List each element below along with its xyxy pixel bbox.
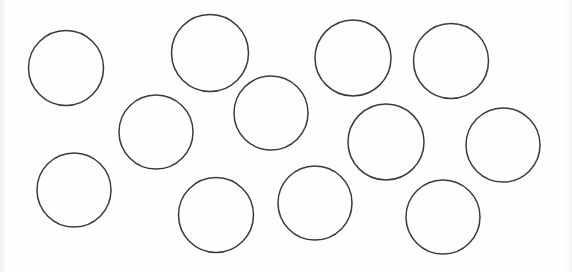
circle-10: circle 10 (179, 178, 254, 253)
circle-12: circle 12 (406, 180, 480, 254)
drawing-canvas: circle 1circle 2circle 3circle 4circle 5… (0, 0, 572, 272)
circle-5: circle 5 (119, 95, 193, 169)
circle-1: circle 1 (29, 31, 104, 106)
circle-layer: circle 1circle 2circle 3circle 4circle 5… (0, 0, 572, 272)
circle-6: circle 6 (234, 76, 308, 150)
circle-3: circle 3 (315, 20, 391, 96)
circle-4: circle 4 (414, 24, 489, 99)
circle-9: circle 9 (37, 153, 111, 227)
circle-7: circle 7 (348, 104, 424, 180)
circle-11: circle 11 (278, 166, 352, 240)
circle-8: circle 8 (466, 108, 540, 182)
circle-2: circle 2 (172, 15, 249, 92)
